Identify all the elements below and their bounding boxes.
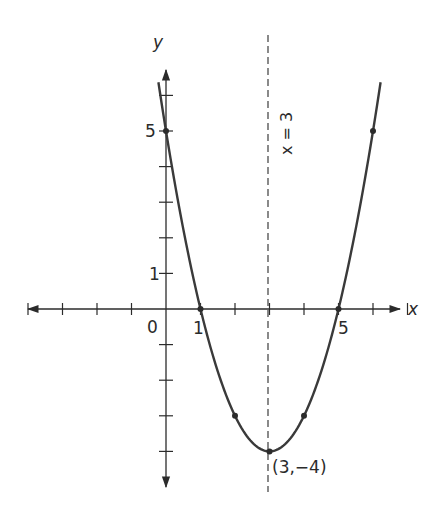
point-marker (163, 128, 169, 134)
x-tick-label-1: 1 (193, 318, 204, 338)
point-marker (232, 413, 238, 419)
point-marker (336, 306, 342, 312)
x-tick-label-5: 5 (338, 318, 349, 338)
origin-label: 0 (147, 317, 158, 337)
point-marker (198, 306, 204, 312)
y-axis-label: y (152, 32, 164, 52)
x-axis-label: x (407, 299, 419, 319)
point-marker (370, 128, 376, 134)
point-marker (267, 448, 273, 454)
axis-of-symmetry-label: x = 3 (277, 112, 296, 155)
parabola-curve (158, 82, 380, 451)
parabola-diagram: y x 0 1 5 1 5 (3,−4) x = 3 (0, 0, 445, 511)
point-marker (301, 413, 307, 419)
y-tick-label-1: 1 (149, 264, 160, 284)
y-tick-label-5: 5 (145, 121, 156, 141)
vertex-label: (3,−4) (272, 457, 327, 477)
marked-points (163, 128, 376, 454)
axes (28, 70, 400, 487)
